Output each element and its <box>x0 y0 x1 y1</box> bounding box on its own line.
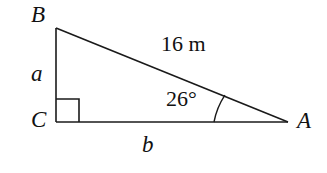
angle-arc-icon <box>214 95 225 122</box>
vertex-label-b: B <box>31 3 45 26</box>
side-label-b: b <box>142 133 154 156</box>
angle-measure-label: 26° <box>166 88 197 110</box>
side-label-a: a <box>31 62 43 85</box>
triangle-drawing <box>0 0 327 173</box>
geometry-figure: B C A a b 16 m 26° <box>0 0 327 173</box>
hypotenuse-measure-label: 16 m <box>161 33 206 55</box>
vertex-label-c: C <box>31 108 46 131</box>
right-angle-square-icon <box>56 99 79 122</box>
vertex-label-a: A <box>297 109 311 132</box>
